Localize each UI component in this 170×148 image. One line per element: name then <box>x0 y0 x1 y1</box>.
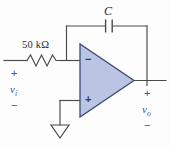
input-polarity-minus: − <box>11 100 17 111</box>
ground-triangle-icon <box>51 125 69 138</box>
resistor-value-label: 50 kΩ <box>22 40 49 51</box>
input-polarity-plus: + <box>11 68 17 79</box>
output-polarity-minus: − <box>144 120 150 131</box>
circuit-diagram: 50 kΩ C − + + vi − + vo − <box>0 0 170 148</box>
capacitor-plates <box>106 20 113 33</box>
resistor-zigzag <box>27 55 60 66</box>
output-voltage-label: vo <box>142 104 151 118</box>
opamp-noninverting-input-symbol: + <box>85 94 91 105</box>
capacitor-label: C <box>104 5 112 17</box>
input-voltage-label: vi <box>10 84 17 98</box>
opamp-inverting-input-symbol: − <box>85 54 91 65</box>
input-voltage-subscript: i <box>15 89 17 98</box>
output-polarity-plus: + <box>144 88 150 99</box>
output-voltage-subscript: o <box>147 109 151 118</box>
